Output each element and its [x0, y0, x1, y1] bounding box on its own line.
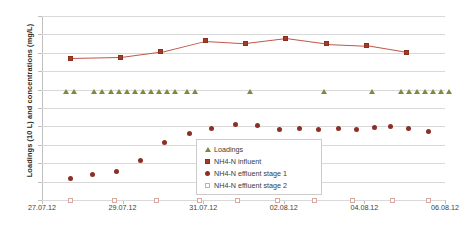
- legend-item-label: NH4-N effluent stage 1: [214, 169, 287, 178]
- legend-item-label: Loadings: [214, 145, 243, 154]
- x-axis-tick-label: 29.07.12: [93, 203, 153, 212]
- x-axis-tick-label: 06.08.12: [415, 203, 464, 212]
- data-point-marker: [154, 198, 159, 203]
- x-axis-tick-mark: [445, 200, 446, 204]
- data-point-marker: [197, 198, 202, 203]
- legend-item[interactable]: NH4-N influent: [201, 155, 317, 167]
- gridline: [42, 200, 445, 201]
- legend-item-label: NH4-N effluent stage 2: [214, 181, 287, 190]
- data-point-marker: [68, 198, 73, 203]
- legend-item[interactable]: Loadings: [201, 143, 317, 155]
- data-point-marker: [112, 198, 117, 203]
- x-axis-tick-label: 02.08.12: [254, 203, 314, 212]
- x-axis-tick-label: 31.07.12: [173, 203, 233, 212]
- x-axis-tick-label: 04.08.12: [334, 203, 394, 212]
- data-point-marker: [235, 198, 240, 203]
- y-axis-title: Loadings (10 L) and concentrations (mg/L…: [25, 11, 34, 191]
- data-point-marker: [390, 198, 395, 203]
- legend-item[interactable]: NH4-N effluent stage 1: [201, 167, 317, 179]
- x-axis-tick-label: 27.07.12: [12, 203, 72, 212]
- data-point-marker: [350, 198, 355, 203]
- triangle-marker-icon: [201, 147, 214, 152]
- chart-legend: LoadingsNH4-N influentNH4-N effluent sta…: [196, 139, 322, 195]
- square-marker-icon: [201, 159, 214, 164]
- circle-marker-icon: [201, 171, 214, 176]
- open-square-marker-icon: [201, 183, 214, 188]
- data-point-marker: [275, 198, 280, 203]
- data-point-marker: [312, 198, 317, 203]
- data-point-marker: [446, 89, 452, 94]
- legend-item[interactable]: NH4-N effluent stage 2: [201, 179, 317, 191]
- data-point-marker: [426, 198, 431, 203]
- legend-item-label: NH4-N influent: [214, 157, 261, 166]
